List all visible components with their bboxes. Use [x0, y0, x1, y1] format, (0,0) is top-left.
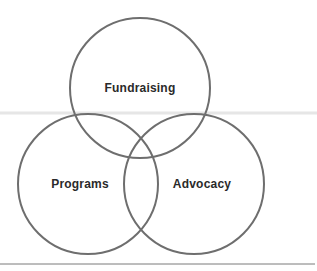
label-programs: Programs — [51, 177, 109, 191]
label-advocacy: Advocacy — [173, 177, 231, 191]
label-fundraising: Fundraising — [105, 81, 176, 95]
venn-diagram — [0, 0, 317, 271]
